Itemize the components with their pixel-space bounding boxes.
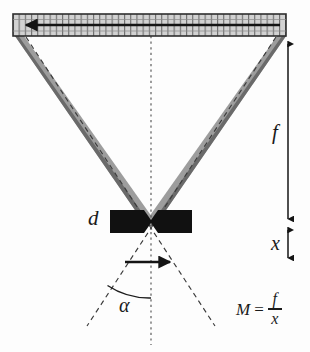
equation-operator: = — [253, 300, 265, 320]
label-f: f — [272, 120, 278, 145]
left-black-wedge — [110, 210, 152, 233]
aperture-wedges — [110, 210, 192, 233]
label-alpha: α — [119, 294, 130, 317]
label-x: x — [271, 232, 280, 255]
magnification-equation: M = f x — [236, 292, 282, 328]
equation-denominator: x — [268, 311, 281, 327]
label-d: d — [88, 206, 99, 231]
equation-fraction: f x — [268, 291, 282, 327]
right-black-wedge — [150, 210, 192, 233]
equation-lhs: M — [236, 300, 250, 320]
equation-numerator: f — [270, 291, 280, 307]
figure-canvas: d f x α M = f x — [0, 0, 310, 352]
